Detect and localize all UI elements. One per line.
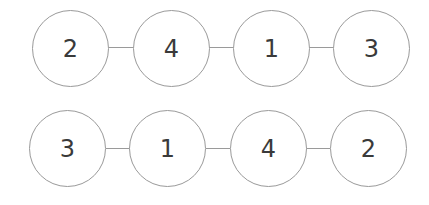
node-row2-1: 3 [29,110,106,187]
node-row1-1: 2 [32,10,109,87]
node-row1-3: 1 [233,10,310,87]
node-row2-4: 2 [330,110,407,187]
edge-1-1 [109,47,133,48]
edge-2-3 [306,148,330,149]
node-row2-3: 4 [230,110,307,187]
node-row2-2: 1 [129,110,206,187]
edge-1-3 [309,47,333,48]
node-row1-2: 4 [133,10,210,87]
edge-2-2 [206,148,230,149]
node-row1-4: 3 [333,10,410,87]
edge-1-2 [209,47,233,48]
edge-2-1 [106,148,130,149]
